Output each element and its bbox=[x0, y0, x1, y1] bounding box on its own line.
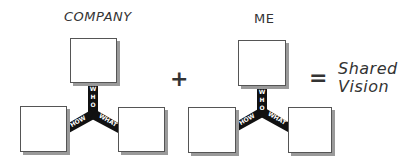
me-right-box bbox=[288, 107, 332, 153]
shared-vision-result: Shared Vision bbox=[338, 60, 398, 96]
result-line-1: Shared bbox=[338, 60, 398, 78]
company-left-box bbox=[20, 106, 67, 152]
me-title: ME bbox=[254, 11, 274, 26]
me-left-box bbox=[188, 107, 236, 153]
me-top-box bbox=[238, 40, 286, 86]
company-right-box bbox=[118, 107, 165, 152]
company-top-box bbox=[70, 38, 117, 83]
result-line-2: Vision bbox=[338, 78, 398, 96]
company-who-vertical: WHO bbox=[88, 85, 98, 109]
equals-sign: = bbox=[309, 67, 327, 89]
me-who-vertical: WHO bbox=[257, 88, 267, 112]
plus-sign: + bbox=[170, 68, 188, 90]
